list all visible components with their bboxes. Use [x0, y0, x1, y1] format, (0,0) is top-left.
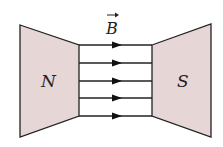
arrow-icon	[112, 42, 122, 120]
north-label: N	[40, 71, 57, 91]
magnetic-field-diagram: B N S	[0, 0, 223, 147]
vector-arrow-icon	[107, 13, 119, 18]
field-label: B	[105, 19, 118, 38]
south-label: S	[177, 71, 189, 91]
